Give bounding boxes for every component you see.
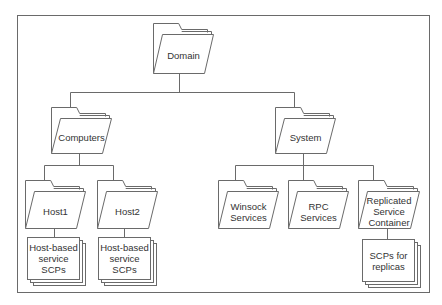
folder-system[interactable]: System <box>276 108 336 154</box>
document-label: Host-based <box>100 242 149 253</box>
folder-label: Host2 <box>115 206 140 217</box>
folder-computers[interactable]: Computers <box>52 108 112 154</box>
folder-label: System <box>290 132 322 143</box>
folder-label: Host1 <box>43 206 68 217</box>
document-label: SCPs for <box>369 250 407 261</box>
folder-label: Container <box>368 217 409 228</box>
folder-host1[interactable]: Host1 <box>26 181 86 229</box>
document-label: SCPs <box>41 264 66 275</box>
document-label: service <box>109 253 139 264</box>
folder-replicated[interactable]: ReplicatedServiceContainer <box>359 181 420 229</box>
document-label: SCPs <box>112 264 137 275</box>
nodes: DomainComputersSystemHost1Host2Host-base… <box>26 24 421 288</box>
folder-label: Winsock <box>231 201 267 212</box>
folder-label: Computers <box>58 132 105 143</box>
document-label: replicas <box>372 261 405 272</box>
folder-label: Service <box>373 206 405 217</box>
folder-rpc[interactable]: RPCServices <box>289 181 349 229</box>
document-label: Host-based <box>29 242 78 253</box>
document-label: service <box>38 253 68 264</box>
folder-label: RPC <box>308 201 328 212</box>
document-stack-host2-scps[interactable]: Host-basedserviceSCPs <box>99 238 157 286</box>
document-stack-replica-scps[interactable]: SCPs forreplicas <box>363 240 421 288</box>
folder-label: Services <box>300 212 337 223</box>
folder-label: Replicated <box>367 195 412 206</box>
folder-domain[interactable]: Domain <box>154 24 214 74</box>
document-stack-host1-scps[interactable]: Host-basedserviceSCPs <box>28 238 86 286</box>
folder-label: Services <box>230 212 267 223</box>
folder-label: Domain <box>167 50 200 61</box>
folder-winsock[interactable]: WinsockServices <box>219 181 279 229</box>
folder-host2[interactable]: Host2 <box>98 181 158 229</box>
hierarchy-diagram: DomainComputersSystemHost1Host2Host-base… <box>0 0 442 305</box>
